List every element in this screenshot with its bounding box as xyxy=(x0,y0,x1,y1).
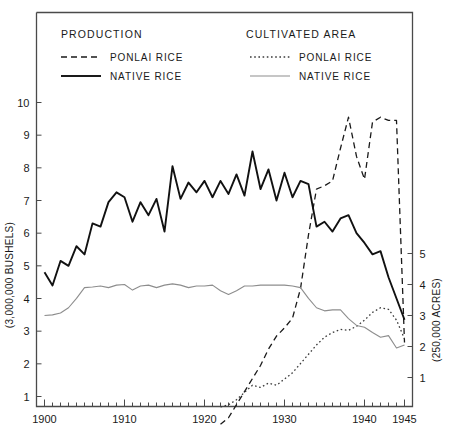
y-tick-label-left: 7 xyxy=(23,195,29,207)
y-tick-label-left: 6 xyxy=(23,227,29,239)
y-tick-label-left: 3 xyxy=(23,325,29,337)
y-tick-label-right: 5 xyxy=(420,248,426,260)
y-tick-label-left: 2 xyxy=(23,358,29,370)
legend-cultivated-area-label-0: PONLAI RICE xyxy=(299,52,372,63)
legend-production-label-1: NATIVE RICE xyxy=(110,71,182,82)
legend-production-label-0: PONLAI RICE xyxy=(110,52,183,63)
x-tick-label: 1910 xyxy=(112,413,136,425)
y-axis-right-title: (250,000 ACRES) xyxy=(431,278,442,362)
chart-background xyxy=(0,0,449,434)
x-tick-label: 1900 xyxy=(32,413,56,425)
y-tick-label-left: 9 xyxy=(23,129,29,141)
y-tick-label-left: 5 xyxy=(23,260,29,272)
legend-cultivated-area-label-1: NATIVE RICE xyxy=(299,71,371,82)
chart-canvas: 1900191019201930194019451234567891012345… xyxy=(0,0,449,434)
y-tick-label-left: 1 xyxy=(23,391,29,403)
y-tick-label-left: 10 xyxy=(17,97,29,109)
y-tick-label-left: 8 xyxy=(23,162,29,174)
y-tick-label-right: 3 xyxy=(420,310,426,322)
x-tick-label: 1945 xyxy=(392,413,416,425)
x-tick-label: 1930 xyxy=(272,413,296,425)
legend-production-heading: PRODUCTION xyxy=(61,28,143,40)
y-tick-label-right: 1 xyxy=(420,372,426,384)
rice-production-chart: 1900191019201930194019451234567891012345… xyxy=(0,0,449,434)
x-tick-label: 1940 xyxy=(352,413,376,425)
y-tick-label-right: 4 xyxy=(420,279,426,291)
y-axis-left-title: (3,000,000 BUSHELS) xyxy=(4,222,15,328)
y-tick-label-left: 4 xyxy=(23,293,29,305)
y-tick-label-right: 2 xyxy=(420,341,426,353)
x-tick-label: 1920 xyxy=(192,413,216,425)
legend-cultivated-area-heading: CULTIVATED AREA xyxy=(246,28,356,40)
